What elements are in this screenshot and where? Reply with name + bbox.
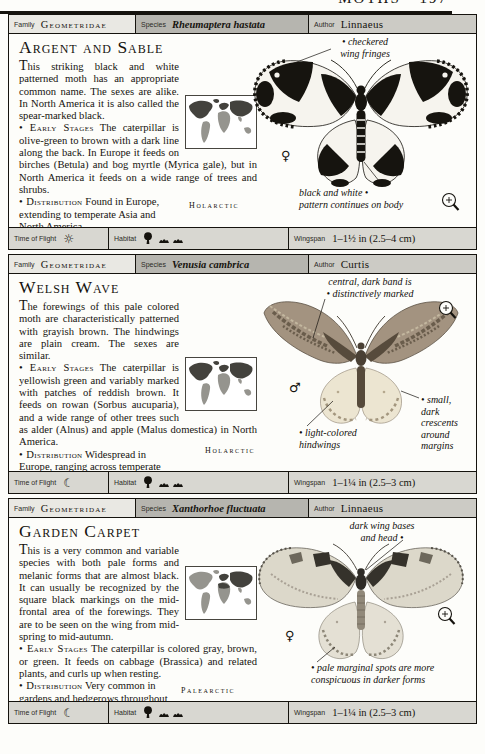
family-label: Family [14, 261, 35, 268]
species-value: Xanthorhoe fluctuata [172, 503, 266, 514]
family-value: Geometridae [41, 259, 107, 270]
time-of-flight-cell: Time of Flight ☼ [9, 228, 109, 249]
author-label: Author [314, 505, 335, 512]
author-cell: Author Linnaeus [309, 15, 476, 33]
tree-icon [143, 706, 153, 719]
species-label: Species [141, 261, 166, 268]
scrub-icon [159, 233, 185, 244]
family-cell: Family Geometridae [9, 255, 136, 273]
female-symbol: ♀ [285, 628, 295, 643]
description-text: This is a very common and variable speci… [19, 544, 257, 702]
habitat-label: Habitat [114, 479, 136, 486]
entry-header: Family Geometridae Species Venusia cambr… [8, 254, 477, 274]
wingspan-value: 1–1¼ in (2.5–3 cm) [332, 477, 415, 488]
habitat-cell: Habitat [109, 702, 289, 723]
family-label: Family [14, 21, 35, 28]
species-title: Argent and Sable [19, 37, 163, 58]
map-caption: Holarctic [189, 201, 239, 210]
early-stages-heading: Early Stages [19, 643, 88, 654]
time-of-flight-label: Time of Flight [14, 235, 56, 242]
species-label: Species [141, 505, 166, 512]
moth-illustration-area: • checkered wing fringes ♀ black and whi… [243, 34, 475, 225]
wingspan-label: Wingspan [294, 479, 325, 486]
entry-footer: Time of Flight ☾ Habitat Wingspan 1–1¼ i… [8, 702, 477, 724]
entry-footer: Time of Flight ☼ Habitat Wingspan 1–1½ i… [8, 228, 477, 250]
annotation-light-hindwings: • light-colored hindwings [299, 427, 409, 450]
distribution-heading: Distribution [19, 196, 83, 207]
wingspan-cell: Wingspan 1–1¼ in (2.5–3 cm) [289, 702, 476, 723]
distribution-heading: Distribution [19, 680, 83, 691]
moon-icon: ☾ [63, 477, 74, 489]
entry-argent-and-sable: Family Geometridae Species Rheumaptera h… [8, 14, 477, 250]
habitat-cell: Habitat [109, 228, 289, 249]
annotation-central-band: central, dark band is • distinctively ma… [299, 276, 441, 299]
annotation-dark-crescents: • small, dark crescents around margins [421, 394, 475, 452]
wingspan-label: Wingspan [294, 709, 325, 716]
book-page: MOTHS • 197 Family Geometridae Species R… [0, 0, 485, 754]
early-stages-heading: Early Stages [19, 122, 94, 133]
species-title: Welsh Wave [19, 277, 119, 298]
distribution-heading: Distribution [19, 449, 83, 460]
entry-body: Garden Carpet [8, 518, 477, 702]
time-of-flight-label: Time of Flight [14, 709, 56, 716]
family-cell: Family Geometridae [9, 499, 136, 517]
magnifier-icon [439, 608, 455, 625]
female-symbol: ♀ [281, 148, 291, 163]
author-value: Linnaeus [341, 502, 384, 514]
species-cell: Species Rheumaptera hastata [136, 15, 309, 33]
species-cell: Species Xanthorhoe fluctuata [136, 499, 309, 517]
male-symbol: ♂ [289, 380, 301, 395]
moth-illustration-area: central, dark band is • distinctively ma… [243, 274, 475, 469]
habitat-icons [143, 476, 185, 489]
author-cell: Author Curtis [309, 255, 476, 273]
family-cell: Family Geometridae [9, 15, 136, 33]
distribution-paragraph: Distribution Widespread in Europe, rangi… [19, 449, 177, 472]
wingspan-cell: Wingspan 1–1½ in (2.5–4 cm) [289, 228, 476, 249]
entry-welsh-wave: Family Geometridae Species Venusia cambr… [8, 254, 477, 494]
moth-illustration-area: dark wing bases and head • ♀ • pale marg… [243, 518, 475, 699]
species-value: Venusia cambrica [172, 259, 249, 270]
author-label: Author [314, 261, 335, 268]
entry-footer: Time of Flight ☾ Habitat Wingspan 1–1¼ i… [8, 472, 477, 494]
family-value: Geometridae [41, 503, 107, 514]
wingspan-cell: Wingspan 1–1¼ in (2.5–3 cm) [289, 472, 476, 493]
wingspan-label: Wingspan [294, 235, 325, 242]
entry-header: Family Geometridae Species Rheumaptera h… [8, 14, 477, 34]
time-of-flight-cell: Time of Flight ☾ [9, 702, 109, 723]
species-value: Rheumaptera hastata [172, 19, 265, 30]
moon-icon: ☾ [63, 707, 74, 719]
time-of-flight-label: Time of Flight [14, 479, 56, 486]
map-caption: Palearctic [181, 686, 235, 695]
entry-header: Family Geometridae Species Xanthorhoe fl… [8, 498, 477, 518]
species-cell: Species Venusia cambrica [136, 255, 309, 273]
annotation-pale-marginal-spots: • pale marginal spots are more conspicuo… [311, 662, 477, 685]
author-label: Author [314, 21, 335, 28]
wingspan-value: 1–1¼ in (2.5–3 cm) [332, 707, 415, 718]
scrub-icon [159, 707, 185, 718]
scrub-icon [159, 477, 185, 488]
family-value: Geometridae [41, 19, 107, 30]
distribution-paragraph: Distribution Very common in gardens and … [19, 680, 177, 702]
running-head-rule: MOTHS • 197 [0, 0, 452, 14]
author-cell: Author Linnaeus [309, 499, 476, 517]
annotation-dark-wing-bases: dark wing bases and head • [327, 520, 437, 543]
family-label: Family [14, 505, 35, 512]
author-value: Linnaeus [341, 18, 384, 30]
time-of-flight-cell: Time of Flight ☾ [9, 472, 109, 493]
species-label: Species [141, 21, 166, 28]
entry-body: Argent and Sable [8, 34, 477, 228]
habitat-label: Habitat [114, 235, 136, 242]
annotation-checkered-fringes: • checkered wing fringes [317, 36, 413, 59]
tree-icon [143, 232, 153, 245]
running-head: MOTHS • 197 [338, 0, 448, 8]
tree-icon [143, 476, 153, 489]
species-title: Garden Carpet [19, 521, 140, 542]
habitat-label: Habitat [114, 709, 136, 716]
early-stages-heading: Early Stages [19, 362, 94, 373]
sun-icon: ☼ [63, 233, 74, 245]
author-value: Curtis [341, 258, 370, 270]
wingspan-value: 1–1½ in (2.5–4 cm) [332, 233, 415, 244]
intro-paragraph: The forewings of this pale colored moth … [19, 300, 257, 362]
entry-garden-carpet: Family Geometridae Species Xanthorhoe fl… [8, 498, 477, 724]
habitat-icons [143, 706, 185, 719]
